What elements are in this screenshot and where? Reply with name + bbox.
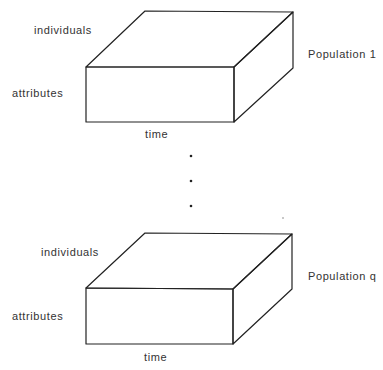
ellipsis-dot <box>190 205 193 208</box>
time-label-1: time <box>145 128 168 140</box>
population-1-label: Population 1 <box>308 48 376 60</box>
cube-population-1 <box>86 11 293 122</box>
stray-mark <box>282 217 283 218</box>
ellipsis-dot <box>190 155 193 158</box>
individuals-label-q: individuals <box>41 246 99 258</box>
time-label-q: time <box>144 351 167 363</box>
ellipsis-dots <box>190 155 284 219</box>
ellipsis-dot <box>190 180 193 183</box>
attributes-label-1: attributes <box>12 87 63 99</box>
cube-population-q <box>86 233 292 344</box>
cube-q-top-face <box>86 233 292 289</box>
individuals-label-1: individuals <box>34 24 92 36</box>
population-q-label: Population q <box>308 270 376 282</box>
cube-1-side-face <box>234 12 293 122</box>
cube-q-front-face <box>86 288 233 344</box>
cube-q-side-face <box>233 234 292 344</box>
cube-1-front-face <box>86 67 234 122</box>
attributes-label-q: attributes <box>12 310 63 322</box>
cube-1-top-face <box>86 11 293 67</box>
